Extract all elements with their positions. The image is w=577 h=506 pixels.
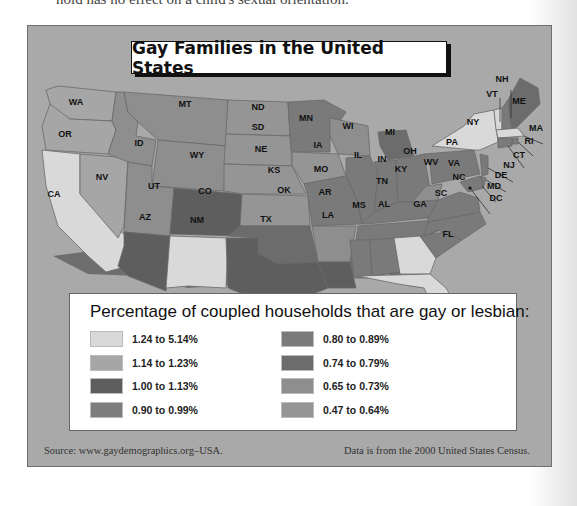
label-NV: NV xyxy=(96,172,109,182)
legend-item: 1.00 to 1.13% xyxy=(90,378,198,394)
legend-box: Percentage of coupled households that ar… xyxy=(69,293,517,431)
chart-title: Gay Families in the United States xyxy=(132,38,446,78)
label-IL: IL xyxy=(354,150,363,160)
legend-column-right: 0.80 to 0.89% 0.74 to 0.79% 0.65 to 0.73… xyxy=(281,331,389,425)
figure-frame: WA OR CA NV ID MT WY UT CO AZ NM ND SD N… xyxy=(27,25,552,467)
state-CT xyxy=(498,138,512,148)
legend-item: 0.74 to 0.79% xyxy=(281,355,389,371)
legend-swatch xyxy=(281,402,314,418)
label-NM: NM xyxy=(190,215,204,225)
state-KS xyxy=(240,194,310,226)
label-CO: CO xyxy=(198,186,212,196)
label-FL: FL xyxy=(443,229,454,239)
label-DE: DE xyxy=(495,170,508,180)
label-MO: MO xyxy=(314,164,329,174)
legend-label: 0.47 to 0.64% xyxy=(323,404,389,416)
legend-title: Percentage of coupled households that ar… xyxy=(90,302,529,322)
label-AL: AL xyxy=(378,199,390,209)
label-ID: ID xyxy=(135,138,145,148)
state-NM xyxy=(166,236,228,288)
label-NC: NC xyxy=(453,172,466,182)
label-LA: LA xyxy=(322,210,334,220)
legend-swatch xyxy=(281,355,314,371)
state-RI xyxy=(512,138,518,144)
label-MI: MI xyxy=(385,127,395,137)
label-ME: ME xyxy=(512,96,526,106)
label-AR: AR xyxy=(319,187,332,197)
label-CT: CT xyxy=(513,150,525,160)
label-OR: OR xyxy=(58,129,72,139)
census-note: Data is from the 2000 United States Cens… xyxy=(344,445,530,456)
legend-item: 0.47 to 0.64% xyxy=(281,402,389,418)
label-SC: SC xyxy=(435,188,448,198)
source-note: Source: www.gaydemographics.org–USA. xyxy=(44,445,223,456)
legend-label: 0.74 to 0.79% xyxy=(323,357,389,369)
legend-swatch xyxy=(90,402,123,418)
label-OH: OH xyxy=(403,146,417,156)
state-WY xyxy=(152,140,226,191)
legend-item: 1.14 to 1.23% xyxy=(90,355,198,371)
label-MA: MA xyxy=(529,123,543,133)
label-WI: WI xyxy=(343,121,354,131)
legend-label: 0.65 to 0.73% xyxy=(323,380,389,392)
label-RI: RI xyxy=(525,136,534,146)
label-VA: VA xyxy=(448,158,460,168)
legend-item: 0.90 to 0.99% xyxy=(90,402,198,418)
label-WA: WA xyxy=(69,97,84,107)
legend-label: 0.90 to 0.99% xyxy=(132,404,198,416)
legend-swatch xyxy=(281,331,314,347)
label-AZ: AZ xyxy=(139,212,151,222)
label-TN: TN xyxy=(376,176,388,186)
label-GA: GA xyxy=(413,199,427,209)
label-ND: ND xyxy=(252,102,265,112)
label-PA: PA xyxy=(446,137,458,147)
label-IA: IA xyxy=(314,140,324,150)
label-WY: WY xyxy=(190,150,205,160)
label-IN: IN xyxy=(378,154,387,164)
label-UT: UT xyxy=(148,181,160,191)
chart-title-box: Gay Families in the United States xyxy=(131,41,447,74)
label-NH: NH xyxy=(496,74,509,84)
legend-item: 0.80 to 0.89% xyxy=(281,331,389,347)
state-MA xyxy=(496,128,524,138)
label-WV: WV xyxy=(424,157,439,167)
label-MT: MT xyxy=(179,99,192,109)
label-NE: NE xyxy=(255,144,268,154)
label-CA: CA xyxy=(48,189,61,199)
label-SD: SD xyxy=(252,122,265,132)
state-AZ xyxy=(118,232,170,291)
legend-label: 1.14 to 1.23% xyxy=(132,357,198,369)
legend-swatch xyxy=(90,355,123,371)
label-NY: NY xyxy=(467,117,480,127)
label-MD: MD xyxy=(487,181,501,191)
legend-swatch xyxy=(90,378,123,394)
legend-item: 0.65 to 0.73% xyxy=(281,378,389,394)
legend-column-left: 1.24 to 5.14% 1.14 to 1.23% 1.00 to 1.13… xyxy=(90,331,198,425)
label-KY: KY xyxy=(395,164,408,174)
state-MS xyxy=(350,240,372,278)
label-KS: KS xyxy=(268,165,281,175)
legend-item: 1.24 to 5.14% xyxy=(90,331,198,347)
state-NJ xyxy=(480,154,488,176)
preceding-body-text: hold has no effect on a child's sexual o… xyxy=(56,0,349,8)
label-MN: MN xyxy=(299,113,313,123)
label-DC: DC xyxy=(490,193,503,203)
label-NJ: NJ xyxy=(503,160,515,170)
legend-label: 1.24 to 5.14% xyxy=(132,333,198,345)
legend-swatch xyxy=(281,378,314,394)
legend-label: 0.80 to 0.89% xyxy=(323,333,389,345)
label-MS: MS xyxy=(352,200,366,210)
legend-label: 1.00 to 1.13% xyxy=(132,380,198,392)
label-TX: TX xyxy=(260,214,272,224)
state-AR xyxy=(312,226,356,262)
legend-swatch xyxy=(90,331,123,347)
state-NY xyxy=(432,110,498,150)
label-OK: OK xyxy=(277,185,291,195)
label-VT: VT xyxy=(486,89,498,99)
